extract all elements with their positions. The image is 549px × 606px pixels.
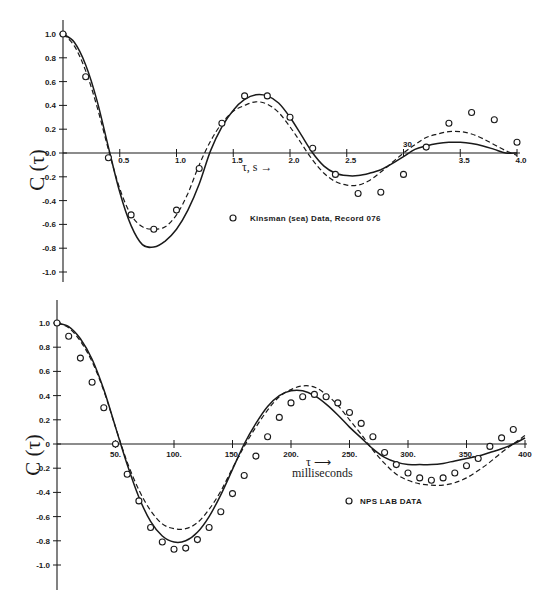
- data-point-marker: [148, 525, 154, 531]
- data-point-marker: [288, 400, 294, 406]
- top-legend-label: Kinsman (sea) Data, Record 076: [250, 214, 381, 223]
- bottom-y-axis-label: C (τ): [21, 434, 45, 476]
- y-tick-label: -1.0: [36, 561, 50, 570]
- data-point-marker: [77, 355, 83, 361]
- y-tick-label: -0.6: [42, 220, 56, 229]
- y-tick-label: -1.0: [42, 268, 56, 277]
- y-tick-label: -0.4: [42, 197, 56, 206]
- data-point-marker: [241, 473, 247, 479]
- data-point-marker: [347, 410, 353, 416]
- data-point-marker: [66, 333, 72, 339]
- data-point-marker: [499, 435, 505, 441]
- y-tick-label: 0.8: [39, 343, 51, 352]
- x-tick-label: 250.: [342, 450, 358, 459]
- y-tick-label: 0.6: [45, 78, 57, 87]
- data-point-marker: [491, 117, 497, 123]
- data-point-marker: [323, 394, 329, 400]
- x-tick-label: 2.0: [288, 156, 300, 165]
- data-point-marker: [54, 320, 60, 326]
- data-point-marker: [487, 443, 493, 449]
- data-point-marker: [370, 434, 376, 440]
- data-point-marker: [405, 470, 411, 476]
- data-point-marker: [230, 491, 236, 497]
- open-circle-marker-icon: [346, 498, 352, 504]
- data-point-marker: [206, 525, 212, 531]
- data-point-marker: [136, 498, 142, 504]
- x-tick-label: 0.5: [118, 156, 130, 165]
- data-point-marker: [311, 391, 317, 397]
- data-point-marker: [428, 477, 434, 483]
- y-tick-label: 0.2: [45, 125, 57, 134]
- x-tick-label: 3.5: [459, 156, 471, 165]
- y-tick-label: 0.2: [39, 416, 51, 425]
- data-point-marker: [183, 545, 189, 551]
- data-point-marker: [265, 434, 271, 440]
- data-point-marker: [151, 226, 157, 232]
- bottom-legend: NPS LAB DATA: [346, 497, 422, 506]
- x-tick-label: 200.: [283, 450, 299, 459]
- x-tick-label: 50.: [110, 450, 121, 459]
- milliseconds-label: milliseconds: [292, 466, 353, 480]
- data-point-marker: [276, 414, 282, 420]
- bottom-axes: 1.00.80.60.40.20-0.2-0.4-0.6-0.8-1.050.1…: [36, 300, 532, 590]
- data-point-marker: [101, 405, 107, 411]
- x-tick-label: 400: [518, 450, 532, 459]
- data-point-marker: [393, 462, 399, 468]
- data-point-marker: [310, 145, 316, 151]
- top-x-axis-label: τ, s →: [242, 160, 273, 174]
- data-point-marker: [83, 74, 89, 80]
- open-circle-marker-icon: [230, 215, 236, 221]
- data-point-marker: [464, 463, 470, 469]
- data-point-marker: [423, 144, 429, 150]
- y-tick-label: 0: [46, 440, 51, 449]
- x-tick-label: 1.0: [175, 156, 187, 165]
- data-point-marker: [510, 427, 516, 433]
- data-point-marker: [452, 470, 458, 476]
- dashed-model-curve: [63, 34, 517, 229]
- data-point-marker: [355, 191, 361, 197]
- data-point-marker: [401, 171, 407, 177]
- data-point-marker: [358, 420, 364, 426]
- y-tick-label: 1.0: [39, 319, 51, 328]
- data-point-marker: [287, 114, 293, 120]
- y-tick-label: 0.4: [45, 101, 57, 110]
- y-tick-label: 0.6: [39, 367, 51, 376]
- data-point-marker: [128, 212, 134, 218]
- data-point-marker: [105, 155, 111, 161]
- data-point-marker: [218, 509, 224, 515]
- data-point-marker: [264, 93, 270, 99]
- x-tick-label: 100.: [166, 450, 182, 459]
- y-tick-label: -0.8: [42, 244, 56, 253]
- data-point-marker: [113, 441, 119, 447]
- data-point-marker: [300, 394, 306, 400]
- data-point-marker: [194, 537, 200, 543]
- y-tick-label: 0.4: [39, 392, 51, 401]
- bottom-curves: [57, 323, 525, 542]
- figure-canvas: 1.00.80.60.40.20.0-0.2-0.4-0.6-0.8-1.00.…: [0, 0, 549, 606]
- solid-model-curve: [57, 323, 525, 542]
- y-tick-label: -0.4: [36, 488, 50, 497]
- data-point-marker: [124, 471, 130, 477]
- data-point-marker: [219, 120, 225, 126]
- data-point-marker: [378, 189, 384, 195]
- bottom-legend-label: NPS LAB DATA: [360, 497, 422, 506]
- top-axes: 1.00.80.60.40.20.0-0.2-0.4-0.6-0.8-1.00.…: [42, 20, 527, 282]
- data-point-marker: [332, 171, 338, 177]
- bottom-chart: 1.00.80.60.40.20-0.2-0.4-0.6-0.8-1.050.1…: [21, 300, 532, 590]
- data-point-marker: [382, 450, 388, 456]
- top-y-axis-label: C (τ): [25, 149, 49, 191]
- data-point-marker: [196, 166, 202, 172]
- data-point-marker: [159, 539, 165, 545]
- y-tick-label: -0.6: [36, 513, 50, 522]
- dashed-model-curve: [57, 323, 525, 529]
- x-tick-label: 2.5: [345, 156, 357, 165]
- top-chart: 1.00.80.60.40.20.0-0.2-0.4-0.6-0.8-1.00.…: [25, 20, 527, 282]
- data-point-marker: [475, 456, 481, 462]
- y-tick-label: 0.8: [45, 54, 57, 63]
- data-point-marker: [469, 110, 475, 116]
- data-point-marker: [440, 475, 446, 481]
- data-point-marker: [253, 453, 259, 459]
- data-point-marker: [335, 400, 341, 406]
- bottom-data-markers: [54, 320, 516, 552]
- x-tick-label: 4.0: [515, 156, 527, 165]
